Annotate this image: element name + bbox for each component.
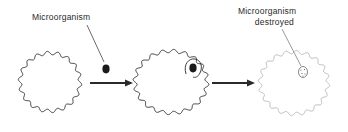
destroyed-label-line1: Microorganism: [238, 6, 294, 17]
cell-before: [18, 51, 81, 112]
microorganism: [102, 65, 109, 74]
cell-engulfing: [133, 49, 209, 114]
cell-after: [258, 50, 330, 115]
destroyed-label-line2: destroyed: [238, 17, 294, 28]
debris-dots: [300, 69, 305, 77]
microorganism-leader-line: [87, 25, 104, 62]
engulfed-microorganism: [189, 64, 196, 73]
microorganism-label: Microorganism: [32, 12, 90, 23]
microorganism-destroyed-label: Microorganism destroyed: [238, 6, 294, 28]
destroyed-leader-line: [282, 29, 301, 66]
